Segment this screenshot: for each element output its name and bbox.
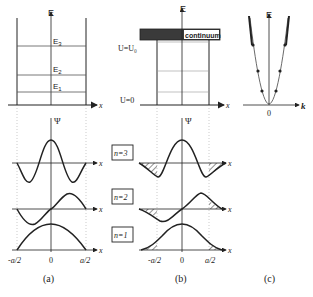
u0-label: U=U₀: [118, 44, 137, 53]
svg-text:n=3: n=3: [114, 149, 127, 158]
panel-c-dispersion: [243, 14, 299, 105]
energy-axis-label-b: E: [180, 4, 186, 14]
x-label-a-top: x: [98, 101, 103, 110]
panel-b-wavefunctions: [139, 108, 226, 252]
state-point: [283, 43, 286, 46]
svg-text:n=1: n=1: [114, 231, 127, 240]
k-axis-label: k: [301, 101, 306, 111]
psi-label-b: Ψ: [185, 116, 192, 126]
x-label-n3-b: x: [227, 159, 232, 168]
x-label-n1-a: x: [98, 246, 103, 255]
level-label-e3: E3: [53, 37, 62, 47]
state-label-n1: n=1: [112, 227, 133, 242]
x-label-b-top: x: [225, 101, 230, 110]
x-label-n3-a: x: [98, 159, 103, 168]
tick-center-a: 0: [49, 256, 53, 265]
panel-a-wavefunctions: [12, 108, 97, 252]
tick-center-b: 0: [180, 256, 184, 265]
wavefunction-n3-a: [17, 140, 86, 182]
level-label-e2: E2: [53, 65, 62, 75]
svg-text:n=2: n=2: [114, 193, 127, 202]
caption-a: (a): [43, 273, 54, 285]
state-point: [278, 69, 281, 72]
wavefunction-n1-a: [17, 224, 86, 250]
state-point: [251, 43, 254, 46]
panel-a-energy-levels: [8, 12, 97, 105]
u-zero-label: U=0: [120, 96, 134, 105]
continuum-label: continuum: [185, 32, 221, 39]
x-label-n1-b: x: [227, 246, 232, 255]
x-label-n2-b: x: [227, 205, 232, 214]
caption-c: (c): [264, 273, 275, 285]
psi-label-a: Ψ: [54, 116, 61, 126]
energy-axis-label-a: E: [48, 8, 54, 18]
state-point: [274, 89, 277, 92]
origin-label: 0: [267, 109, 271, 118]
tick-left-b: -a/2: [148, 256, 161, 265]
x-label-n2-a: x: [98, 205, 103, 214]
level-label-e1: E1: [53, 82, 62, 92]
tick-right-a: a/2: [80, 256, 90, 265]
state-point: [256, 69, 259, 72]
panel-b-finite-well: [140, 8, 224, 105]
tick-right-b: a/2: [205, 256, 215, 265]
state-label-n2: n=2: [112, 189, 133, 204]
state-label-n3: n=3: [112, 145, 133, 160]
tick-left-a: -a/2: [8, 256, 21, 265]
energy-axis-label-c: E: [266, 10, 272, 20]
state-point: [260, 89, 263, 92]
caption-b: (b): [175, 273, 187, 285]
quantum-well-diagram: E E3 E2 E1 x Ψ x x x -a/2 0 a/2 (a) n=3 …: [0, 0, 313, 297]
